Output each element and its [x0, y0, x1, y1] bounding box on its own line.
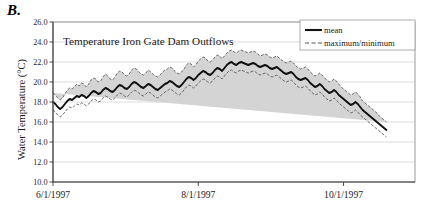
y-tick-label: 14.0: [33, 138, 47, 147]
y-axis-ticks: 26.024.022.020.018.016.014.012.010.0: [33, 18, 53, 187]
y-tick-label: 12.0: [33, 158, 47, 167]
y-tick-label: 22.0: [33, 58, 47, 67]
y-tick-label: 26.0: [33, 18, 47, 27]
figure-panel: B. Water Temperature (°C) 26.024.022.020…: [0, 0, 429, 214]
x-tick-label: 6/1/1997: [36, 189, 70, 200]
y-tick-label: 10.0: [33, 178, 47, 187]
temperature-line-chart: 26.024.022.020.018.016.014.012.010.0 6/1…: [0, 0, 429, 214]
legend-label: maximum/minimum: [324, 38, 395, 48]
legend-label: mean: [324, 25, 343, 35]
x-axis-ticks: 6/1/19978/1/199710/1/1997: [36, 182, 363, 200]
y-tick-label: 16.0: [33, 118, 47, 127]
y-tick-label: 24.0: [33, 38, 47, 47]
chart-legend: meanmaximum/minimum: [300, 20, 415, 50]
y-tick-label: 18.0: [33, 98, 47, 107]
x-tick-label: 8/1/1997: [181, 189, 215, 200]
minmax-band: [53, 50, 386, 122]
x-tick-label: 10/1/1997: [324, 189, 363, 200]
chart-title: Temperature Iron Gate Dam Outflows: [63, 35, 234, 47]
y-tick-label: 20.0: [33, 78, 47, 87]
